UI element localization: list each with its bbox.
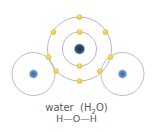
molecule-name: water	[45, 102, 74, 113]
formula-h: H	[84, 102, 92, 113]
oxygen-nucleus	[74, 43, 86, 55]
hydrogen-right-nucleus	[118, 69, 128, 79]
structural-formula: H—O—H	[0, 113, 153, 124]
electron	[108, 54, 113, 59]
electron	[53, 68, 58, 73]
electron	[97, 68, 102, 73]
hydrogen-left-nucleus	[29, 69, 39, 79]
electron	[77, 63, 82, 68]
electron	[77, 78, 82, 83]
electron	[46, 54, 51, 59]
electron	[51, 29, 56, 34]
formula-o: O	[96, 102, 104, 113]
electron	[77, 29, 82, 34]
electron	[77, 14, 82, 19]
electron	[103, 29, 108, 34]
